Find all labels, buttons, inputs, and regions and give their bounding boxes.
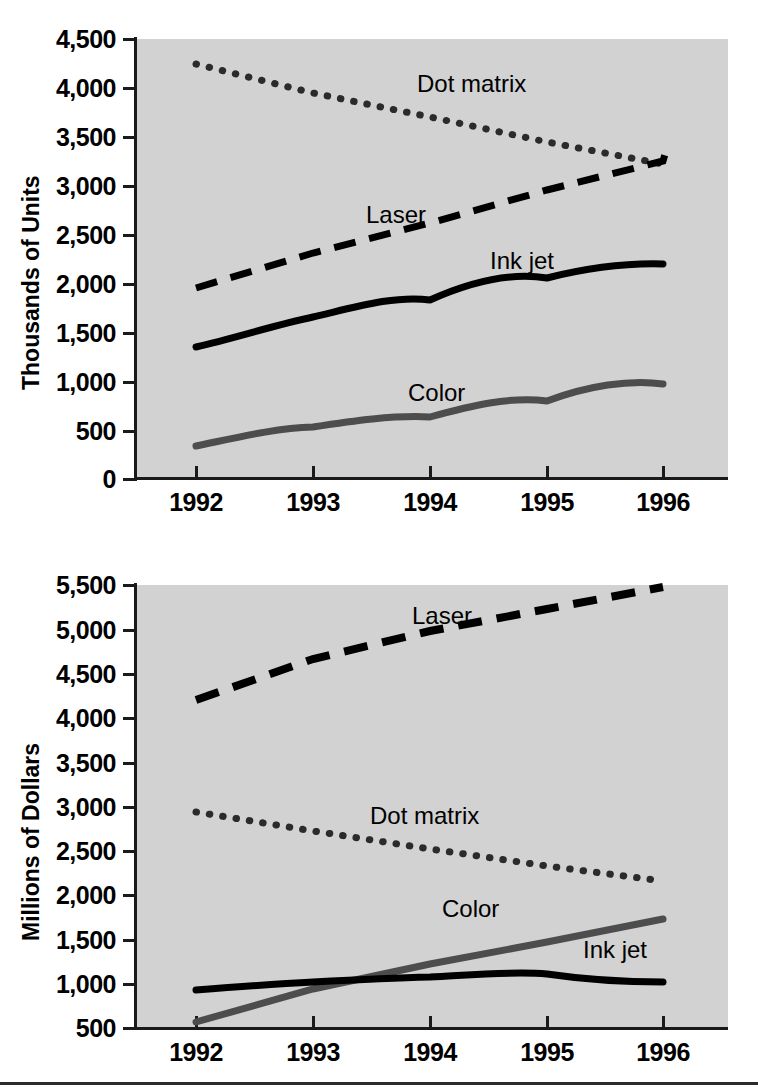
series-label-color-units: Color [408,381,465,405]
series-path-ink-jet-units [196,264,663,347]
footer-divider [0,1082,758,1085]
series-label-laser-units: Laser [366,203,426,227]
series-label-dot-matrix-dollars: Dot matrix [370,804,479,828]
series-path-color-dollars [196,919,663,1022]
chart-units: 4,500 4,000 3,500 3,000 2,500 2,000 1,50… [0,0,758,546]
series-label-ink-jet-dollars: Ink jet [583,938,647,962]
series-label-dot-matrix-units: Dot matrix [417,72,526,96]
series-overlay-units [0,0,758,546]
series-label-ink-jet-units: Ink jet [490,249,554,273]
series-path-ink-jet-dollars [196,973,663,990]
series-label-laser-dollars: Laser [412,604,472,628]
chart-dollars: 5,500 5,000 4,500 4,000 3,500 3,000 2,50… [0,546,758,1092]
series-label-color-dollars: Color [442,897,499,921]
